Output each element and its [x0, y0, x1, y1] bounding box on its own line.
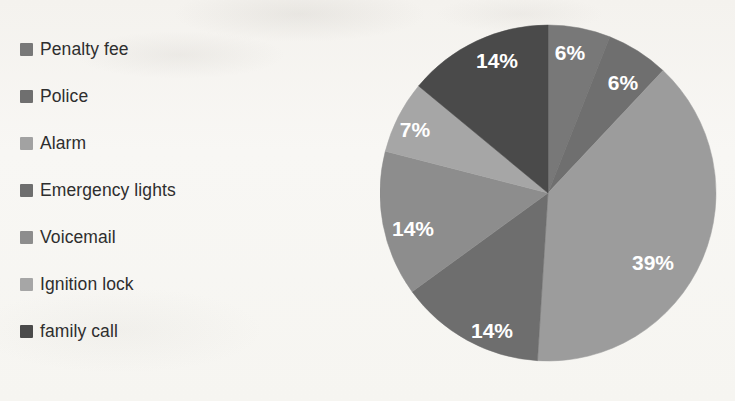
legend-item-label: Voicemail — [40, 227, 116, 248]
legend-item[interactable]: Emergency lights — [20, 167, 320, 214]
pie-slice-value-label: 39% — [632, 251, 674, 274]
legend-swatch-icon — [20, 325, 33, 338]
pie-chart: 6%6%39%14%14%7%14% — [380, 12, 718, 374]
legend-item[interactable]: Voicemail — [20, 214, 320, 261]
legend-swatch-icon — [20, 137, 33, 150]
legend-item-label: Ignition lock — [40, 274, 134, 295]
legend-swatch-icon — [20, 90, 33, 103]
legend-item-label: Emergency lights — [40, 180, 176, 201]
pie-slice-value-label: 6% — [608, 71, 639, 94]
pie-chart-figure: Penalty feePoliceAlarmEmergency lightsVo… — [0, 0, 735, 401]
legend-swatch-icon — [20, 184, 33, 197]
legend-swatch-icon — [20, 231, 33, 244]
legend-item-label: Alarm — [40, 133, 86, 154]
pie-slice-value-label: 6% — [555, 41, 586, 64]
legend-item[interactable]: Ignition lock — [20, 261, 320, 308]
legend-swatch-icon — [20, 43, 33, 56]
legend-item[interactable]: family call — [20, 308, 320, 355]
legend-item[interactable]: Alarm — [20, 120, 320, 167]
chart-legend: Penalty feePoliceAlarmEmergency lightsVo… — [20, 26, 320, 355]
pie-slice-value-label: 14% — [476, 49, 518, 72]
legend-item[interactable]: Penalty fee — [20, 26, 320, 73]
pie-chart-svg: 6%6%39%14%14%7%14% — [380, 12, 718, 374]
legend-swatch-icon — [20, 278, 33, 291]
pie-slice-value-label: 14% — [471, 319, 513, 342]
legend-item-label: Police — [40, 86, 88, 107]
legend-item-label: Penalty fee — [40, 39, 129, 60]
legend-item-label: family call — [40, 321, 118, 342]
pie-slices — [380, 25, 716, 361]
pie-slice-value-label: 14% — [392, 217, 434, 240]
legend-item[interactable]: Police — [20, 73, 320, 120]
pie-slice-value-label: 7% — [400, 118, 431, 141]
